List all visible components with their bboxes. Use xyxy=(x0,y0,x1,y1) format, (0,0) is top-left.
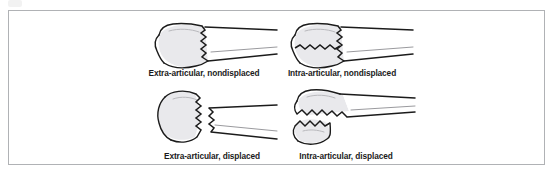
illustration-intra-articular-nondisplaced xyxy=(291,24,413,68)
caption-intra-articular-displaced: Intra-articular, displaced xyxy=(281,151,411,161)
displaced-articular-fragment xyxy=(293,119,331,144)
caption-extra-articular-nondisplaced: Extra-articular, nondisplaced xyxy=(139,68,269,78)
displaced-distal-fragment xyxy=(158,91,201,142)
caption-extra-articular-displaced: Extra-articular, displaced xyxy=(147,151,277,161)
styloid-process xyxy=(295,101,297,114)
scan-artifact xyxy=(8,0,22,7)
fragment-shading xyxy=(158,91,201,140)
shaft-fill xyxy=(343,95,415,117)
illustration-extra-articular-nondisplaced xyxy=(155,24,277,68)
proximal-bone-with-epiphysis xyxy=(295,90,415,117)
proximal-shaft-segment xyxy=(209,105,277,139)
illustration-intra-articular-displaced xyxy=(293,90,415,144)
shaft-fill xyxy=(209,105,277,139)
fracture-illustration-canvas xyxy=(9,11,546,166)
illustration-extra-articular-displaced xyxy=(158,91,277,142)
caption-intra-articular-nondisplaced: Intra-articular, nondisplaced xyxy=(277,68,407,78)
figure-frame: Extra-articular, nondisplaced Intra-arti… xyxy=(8,10,545,165)
shaft-fill xyxy=(205,27,277,61)
epiphysis-shading xyxy=(159,25,208,68)
shaft-fill xyxy=(341,27,413,61)
